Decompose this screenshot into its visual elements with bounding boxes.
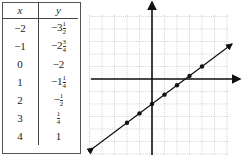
denominator: 2 [63,29,67,36]
xy-table: x y −2 −312 −1 −234 0 −2 1 −114 2 −12 3 … [2,2,78,145]
x-value: 3 [2,109,39,127]
x-value: 4 [2,127,39,145]
y-whole: −1 [51,75,63,87]
y-value: −312 [39,19,79,38]
y-fraction: 12 [60,93,64,108]
table-row: −1 −234 [2,37,78,55]
data-point [175,83,179,87]
y-fraction: 14 [63,75,67,90]
table-row: 4 1 [2,127,78,145]
y-value: −2 [39,55,79,73]
y-fraction: 12 [63,21,67,36]
x-value: 0 [2,55,39,73]
y-value: 1 [39,127,79,145]
table-row: 0 −2 [2,55,78,73]
data-point [187,74,191,78]
y-value: −12 [39,91,79,109]
table-row: −2 −312 [2,19,78,38]
x-value: −1 [2,37,39,55]
data-point [150,102,154,106]
data-point [137,111,141,115]
header-y: y [39,2,79,19]
y-value: −114 [39,73,79,91]
denominator: 2 [60,101,64,108]
coordinate-graph [85,0,242,155]
denominator: 4 [63,47,67,54]
y-whole: 1 [56,130,62,142]
x-value: 1 [2,73,39,91]
y-fraction: 14 [57,111,61,126]
plotted-line [93,44,232,148]
data-point [162,92,166,96]
y-whole: −2 [53,58,65,70]
denominator: 4 [63,83,67,90]
x-value: 2 [2,91,39,109]
y-fraction: 34 [63,39,67,54]
denominator: 4 [57,119,61,126]
y-whole: −3 [51,21,63,33]
grid [90,15,230,155]
table-row: 3 14 [2,109,78,127]
table-row: 2 −12 [2,91,78,109]
data-point [125,121,129,125]
y-whole: −2 [51,39,63,51]
y-value: 14 [39,109,79,127]
data-point [200,64,204,68]
header-x: x [2,2,39,19]
x-value: −2 [2,19,39,38]
table-row: 1 −114 [2,73,78,91]
y-value: −234 [39,37,79,55]
